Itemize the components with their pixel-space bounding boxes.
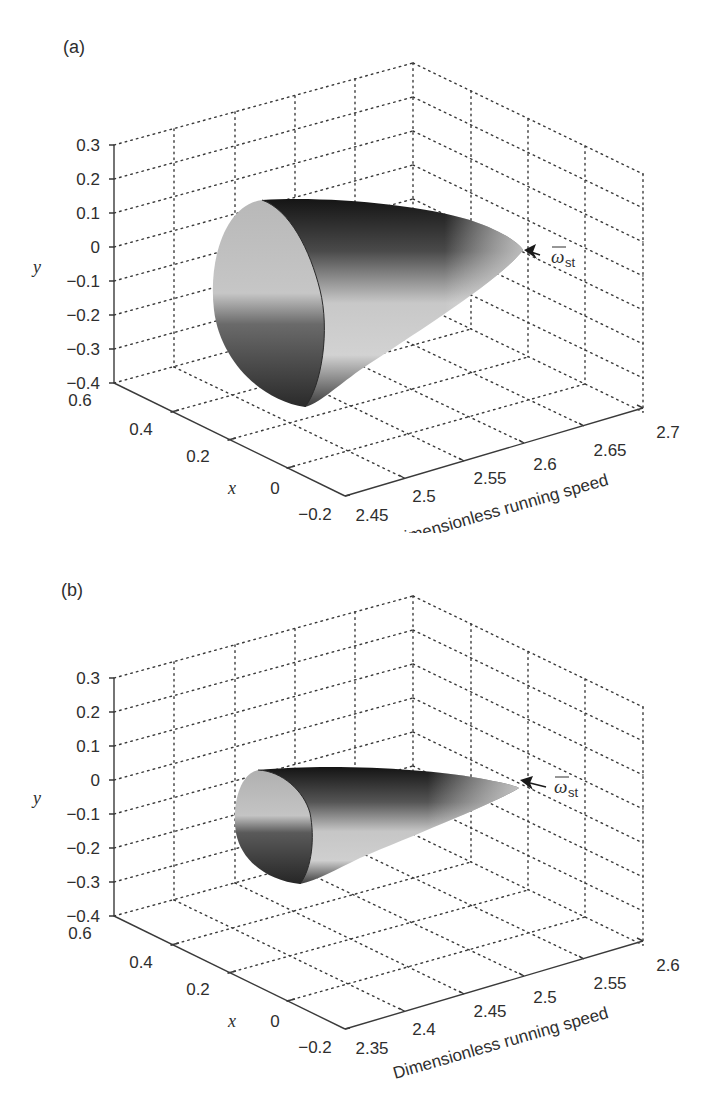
svg-text:−0.3: −0.3 bbox=[66, 340, 100, 359]
svg-text:2.55: 2.55 bbox=[473, 469, 506, 488]
y-axis-label-b: y bbox=[31, 788, 41, 808]
plot-3d-a: ω st (a) 0.3 0.2 0.1 0 −0.1 −0.2 −0.3 −0… bbox=[0, 0, 721, 533]
svg-text:−0.2: −0.2 bbox=[66, 839, 100, 858]
svg-text:2.4: 2.4 bbox=[412, 1020, 436, 1039]
panel-b: ω st (b) 0.3 0.2 0.1 0 −0.1 −0.2 −0.3 −0… bbox=[0, 533, 721, 1066]
omega-symbol: ω bbox=[554, 776, 567, 797]
svg-text:−0.3: −0.3 bbox=[66, 873, 100, 892]
x-tick-labels-a: 0.6 0.4 0.2 0 −0.2 bbox=[68, 391, 332, 524]
svg-text:0.3: 0.3 bbox=[76, 136, 100, 155]
omega-subscript: st bbox=[565, 255, 576, 270]
svg-text:2.45: 2.45 bbox=[473, 1002, 506, 1021]
panel-label-b: (b) bbox=[61, 580, 83, 600]
y-tick-labels-a: 0.3 0.2 0.1 0 −0.1 −0.2 −0.3 −0.4 bbox=[66, 136, 100, 393]
svg-text:0.6: 0.6 bbox=[68, 924, 92, 943]
svg-text:−0.1: −0.1 bbox=[66, 805, 100, 824]
svg-text:2.45: 2.45 bbox=[355, 506, 388, 525]
svg-text:0.1: 0.1 bbox=[76, 737, 100, 756]
x-tick-labels-b: 0.6 0.4 0.2 0 −0.2 bbox=[68, 924, 332, 1057]
omega-symbol: ω bbox=[551, 246, 564, 267]
panel-a: ω st (a) 0.3 0.2 0.1 0 −0.1 −0.2 −0.3 −0… bbox=[0, 0, 721, 533]
svg-text:2.6: 2.6 bbox=[656, 956, 680, 975]
grid-right-wall bbox=[413, 596, 643, 945]
svg-text:2.65: 2.65 bbox=[593, 441, 626, 460]
omega-st-annotation: ω st bbox=[524, 244, 576, 270]
svg-text:0.2: 0.2 bbox=[76, 170, 100, 189]
y-axis-label-a: y bbox=[31, 257, 41, 277]
svg-text:0: 0 bbox=[91, 238, 100, 257]
omega-subscript: st bbox=[568, 785, 579, 800]
svg-text:−0.2: −0.2 bbox=[298, 505, 332, 524]
svg-text:0.6: 0.6 bbox=[68, 391, 92, 410]
x-axis-label-a: x bbox=[227, 478, 236, 498]
svg-text:0.4: 0.4 bbox=[129, 420, 153, 439]
panel-label-a: (a) bbox=[63, 37, 85, 57]
bifurcation-surface-a bbox=[213, 199, 523, 407]
y-tick-labels-b: 0.3 0.2 0.1 0 −0.1 −0.2 −0.3 −0.4 bbox=[66, 669, 100, 926]
svg-text:2.7: 2.7 bbox=[656, 423, 680, 442]
svg-text:0: 0 bbox=[270, 479, 279, 498]
plot-3d-b: ω st (b) 0.3 0.2 0.1 0 −0.1 −0.2 −0.3 −0… bbox=[0, 533, 721, 1120]
svg-text:0.2: 0.2 bbox=[76, 703, 100, 722]
svg-text:0: 0 bbox=[91, 771, 100, 790]
x-axis-label-b: x bbox=[227, 1011, 236, 1031]
svg-text:0: 0 bbox=[270, 1012, 279, 1031]
svg-text:0.2: 0.2 bbox=[186, 447, 210, 466]
svg-text:2.5: 2.5 bbox=[533, 988, 557, 1007]
svg-text:2.55: 2.55 bbox=[593, 974, 626, 993]
svg-text:2.5: 2.5 bbox=[412, 487, 436, 506]
svg-text:0.1: 0.1 bbox=[76, 204, 100, 223]
svg-text:−0.1: −0.1 bbox=[66, 272, 100, 291]
bifurcation-surface-b bbox=[235, 767, 519, 884]
svg-text:0.4: 0.4 bbox=[129, 953, 153, 972]
svg-text:0.3: 0.3 bbox=[76, 669, 100, 688]
svg-text:2.6: 2.6 bbox=[533, 455, 557, 474]
svg-text:2.35: 2.35 bbox=[355, 1039, 388, 1058]
svg-text:−0.2: −0.2 bbox=[66, 306, 100, 325]
svg-text:0.2: 0.2 bbox=[186, 980, 210, 999]
svg-text:−0.2: −0.2 bbox=[298, 1038, 332, 1057]
grid-floor bbox=[171, 850, 585, 1011]
